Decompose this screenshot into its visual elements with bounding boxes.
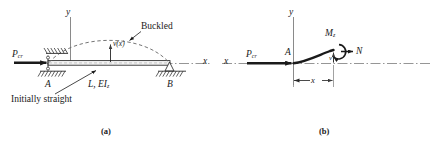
label-x-axis-b: x (224, 57, 228, 67)
buckled-shape-a (49, 40, 169, 62)
label-y-axis-a: y (66, 8, 70, 18)
label-buckled-a: Buckled (141, 22, 173, 32)
buckled-leader-line (130, 32, 142, 41)
label-x-axis-a: x (203, 57, 207, 67)
label-load-b: Pcr (246, 50, 257, 60)
panel-a (14, 17, 212, 94)
label-y-axis-b: y (289, 8, 293, 18)
label-normal-force-b: N (356, 47, 362, 57)
label-support-b: B (167, 80, 173, 90)
label-distance-b: x (311, 76, 315, 85)
buckling-figure (0, 0, 434, 146)
label-moment-b: Mz (325, 29, 335, 39)
label-initially-straight-a: Initially straight (11, 95, 72, 105)
label-load-a: Pcr (12, 50, 23, 60)
caption-panel-a: (a) (101, 126, 111, 136)
label-support-a: A (45, 80, 51, 90)
caption-panel-b: (b) (319, 126, 329, 136)
deformed-segment-b (294, 50, 334, 63)
label-beam-properties-a: L, EIz (88, 80, 109, 90)
label-deflection-a: v(x) (113, 40, 125, 48)
label-point-a-b: A (285, 48, 291, 58)
label-deflection-b: v (329, 55, 332, 62)
